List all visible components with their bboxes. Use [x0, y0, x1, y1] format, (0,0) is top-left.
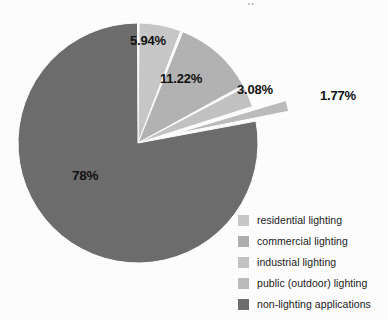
legend-item-label: residential lighting	[257, 214, 342, 226]
legend-swatch-icon	[238, 215, 249, 226]
slice-label-non-lighting: 78%	[72, 168, 98, 183]
legend-item: commercial lighting	[238, 231, 388, 251]
legend-swatch-icon	[238, 299, 249, 310]
legend-item-label: commercial lighting	[257, 235, 348, 247]
legend-item: residential lighting	[238, 210, 388, 230]
legend-item: industrial lighting	[238, 252, 388, 272]
slice-label-industrial: 3.08%	[237, 82, 273, 97]
legend-swatch-icon	[238, 278, 249, 289]
legend-swatch-icon	[238, 257, 249, 268]
legend-swatch-icon	[238, 236, 249, 247]
slice-label-public: 1.77%	[320, 88, 356, 103]
legend-item-label: non-lighting applications	[257, 298, 371, 310]
pie-chart-figure: y 5.94% 11.22% 3.08% 1.77% 78% residenti…	[0, 0, 388, 320]
slice-label-residential: 5.94%	[130, 33, 166, 48]
legend-item-label: industrial lighting	[257, 256, 336, 268]
legend-item: public (outdoor) lighting	[238, 273, 388, 293]
legend-item-label: public (outdoor) lighting	[257, 277, 367, 289]
chart-legend: residential lightingcommercial lightingi…	[238, 210, 388, 315]
legend-item: non-lighting applications	[238, 294, 388, 314]
slice-label-commercial: 11.22%	[160, 71, 202, 86]
